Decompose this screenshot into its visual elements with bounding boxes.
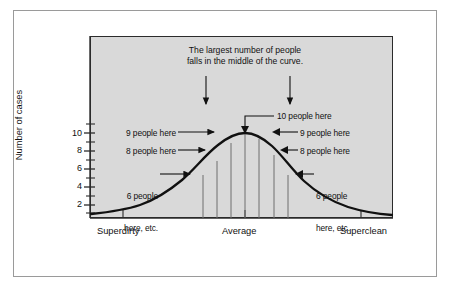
headline-annotation: The largest number of people falls in th… [155, 45, 335, 67]
headline-line-2: falls in the middle of the curve. [155, 56, 335, 67]
right-six-line-2: here, etc. [316, 223, 350, 234]
peak-annotation-label: 10 people here [277, 111, 331, 122]
right-nine-label: 9 people here [300, 128, 350, 139]
left-eight-label: 8 people here [98, 146, 176, 157]
y-axis-label: Number of cases [14, 70, 24, 180]
y-tick-label-2: 2 [66, 199, 82, 209]
right-six-line-1: 6 people [316, 191, 350, 202]
y-tick-label-6: 6 [66, 163, 82, 173]
y-tick-label-10: 10 [66, 128, 82, 138]
x-tick-label-average: Average [222, 226, 256, 236]
left-nine-label: 9 people here [98, 128, 176, 139]
headline-line-1: The largest number of people [155, 45, 335, 56]
y-tick-label-8: 8 [66, 145, 82, 155]
left-six-label: 6 people here, etc. [98, 170, 158, 254]
left-six-line-2: here, etc. [98, 223, 158, 234]
right-eight-label: 8 people here [300, 146, 350, 157]
y-tick-label-4: 4 [66, 181, 82, 191]
bell-curve-figure: 10 8 6 4 2 Number of cases Superdirty Av… [0, 0, 450, 288]
right-six-label: 6 people here, etc. [316, 170, 350, 254]
left-six-line-1: 6 people [98, 191, 158, 202]
